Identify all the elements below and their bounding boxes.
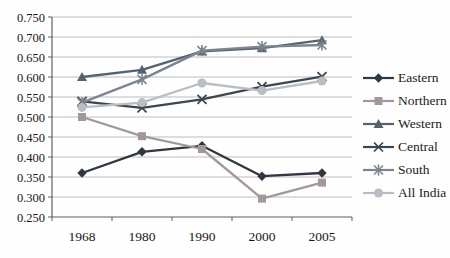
circle-marker-icon [138, 98, 147, 107]
y-tick-label: 0.700 [17, 31, 45, 45]
x-legend-key-icon [362, 140, 395, 154]
diamond-marker-icon [317, 168, 326, 177]
square-marker-icon [258, 195, 266, 203]
diamond-marker-icon [137, 147, 146, 156]
square-marker-icon [375, 97, 383, 105]
y-tick-label: 0.750 [17, 11, 45, 25]
circle-marker-icon [258, 86, 267, 95]
y-tick-label: 0.600 [17, 71, 45, 85]
x-tick-label: 1980 [129, 229, 156, 244]
series-line [82, 117, 322, 199]
star-legend-key-icon [362, 163, 395, 177]
legend-item-central: Central [362, 135, 447, 158]
circle-marker-icon [78, 103, 87, 112]
legend-item-south: South [362, 158, 447, 181]
legend-label: Western [398, 116, 442, 132]
chart-legend: EasternNorthernWesternCentralSouthAll In… [362, 66, 447, 204]
legend-item-eastern: Eastern [362, 66, 447, 89]
x-tick-label: 2000 [249, 229, 276, 244]
square-marker-icon [318, 179, 326, 187]
y-tick-label: 0.500 [17, 111, 45, 125]
legend-item-northern: Northern [362, 89, 447, 112]
series-central [78, 72, 327, 112]
legend-label: Northern [398, 93, 447, 109]
legend-label: Central [398, 139, 438, 155]
series-northern [78, 113, 326, 203]
diamond-marker-icon [374, 73, 383, 82]
circle-legend-key-icon [362, 186, 395, 200]
y-tick-label: 0.550 [17, 91, 45, 105]
line-chart-figure: 0.2500.3000.3500.4000.4500.5000.5500.600… [0, 0, 450, 258]
y-tick-label: 0.450 [17, 131, 45, 145]
y-tick-label: 0.350 [17, 171, 45, 185]
square-marker-icon [198, 145, 206, 153]
y-tick-label: 0.250 [17, 211, 45, 225]
square-legend-key-icon [362, 94, 395, 108]
diamond-legend-key-icon [362, 71, 395, 85]
y-tick-label: 0.650 [17, 51, 45, 65]
triangle-legend-key-icon [362, 117, 395, 131]
square-marker-icon [78, 113, 86, 121]
diamond-marker-icon [77, 168, 86, 177]
x-tick-label: 1990 [189, 229, 216, 244]
legend-label: All India [398, 185, 446, 201]
y-tick-label: 0.400 [17, 151, 45, 165]
circle-marker-icon [318, 77, 327, 86]
x-tick-label: 2005 [309, 229, 336, 244]
series-western [77, 35, 327, 81]
circle-marker-icon [374, 188, 383, 197]
legend-label: Eastern [398, 70, 438, 86]
y-tick-label: 0.300 [17, 191, 45, 205]
legend-item-western: Western [362, 112, 447, 135]
square-marker-icon [138, 132, 146, 140]
diamond-marker-icon [257, 172, 266, 181]
circle-marker-icon [198, 79, 207, 88]
legend-item-all-india: All India [362, 181, 447, 204]
x-tick-label: 1968 [69, 229, 96, 244]
legend-label: South [398, 162, 430, 178]
